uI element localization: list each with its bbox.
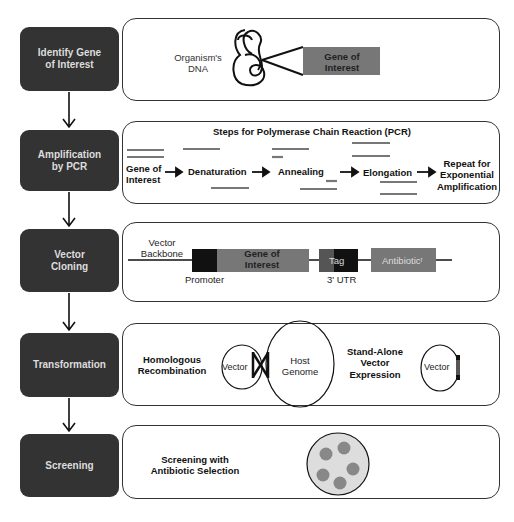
petri-dish-icon [0, 0, 514, 522]
